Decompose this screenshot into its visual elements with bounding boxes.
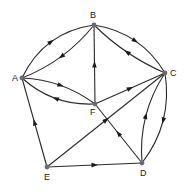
arrowhead-icon <box>91 163 98 168</box>
node-label-B: B <box>90 10 96 20</box>
node-D <box>140 161 145 166</box>
node-A <box>20 76 25 81</box>
edges-group <box>22 25 167 167</box>
node-label-E: E <box>44 172 50 182</box>
node-B <box>92 23 97 28</box>
node-F <box>93 102 98 107</box>
edge-A-F <box>22 78 95 104</box>
edge-C-B <box>94 25 165 73</box>
node-label-D: D <box>140 168 147 178</box>
arrowhead-icon <box>143 112 149 119</box>
node-E <box>45 165 50 170</box>
arrowhead-icon <box>123 48 131 55</box>
node-label-F: F <box>90 107 96 117</box>
arrowhead-icon <box>92 61 97 68</box>
node-label-C: C <box>170 68 177 78</box>
node-C <box>163 71 168 76</box>
edge-B-C <box>94 25 165 73</box>
directed-graph: ABCDEF <box>0 0 187 193</box>
edge-B-A <box>22 25 94 78</box>
node-label-A: A <box>12 73 18 83</box>
arrowhead-icon <box>52 95 60 102</box>
arrowhead-icon <box>160 117 166 124</box>
edge-A-B <box>22 25 94 78</box>
arrowhead-icon <box>126 85 134 92</box>
edge-F-A <box>22 78 95 104</box>
arrowhead-icon <box>57 82 65 89</box>
arrowhead-icon <box>31 119 37 127</box>
